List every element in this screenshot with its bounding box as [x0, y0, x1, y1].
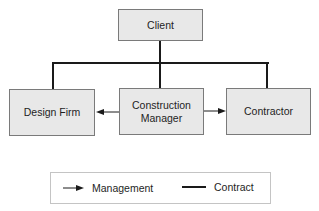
legend: Management Contract	[50, 172, 271, 204]
node-client-label: Client	[147, 19, 174, 32]
node-contractor: Contractor	[226, 88, 311, 135]
node-construction-manager: Construction Manager	[119, 88, 204, 135]
management-arrow-to-design-firm	[96, 109, 119, 115]
node-design-firm-label: Design Firm	[24, 106, 81, 119]
node-construction-manager-label-line2: Manager	[141, 112, 182, 125]
node-design-firm: Design Firm	[9, 89, 95, 136]
node-client: Client	[118, 9, 203, 41]
node-contractor-label: Contractor	[244, 105, 293, 118]
legend-management-label: Management	[92, 182, 153, 194]
management-arrow-to-contractor	[203, 108, 226, 114]
node-construction-manager-label-line1: Construction	[132, 99, 191, 112]
legend-contract-label: Contract	[214, 181, 254, 193]
